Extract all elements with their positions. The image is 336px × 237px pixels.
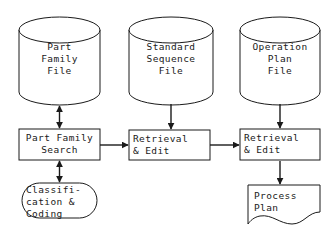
box-retrieval-edit-sequence [129,130,210,160]
diagram-canvas [0,0,336,237]
cylinder-operation-plan-file [240,17,320,105]
cylinder-standard-sequence-file [129,17,213,105]
document-process-plan [248,185,320,224]
process-planning-diagram: Part Family File Standard Sequence File … [0,0,336,237]
box-retrieval-edit-operation [240,129,320,160]
cylinder-part-family-file [19,17,100,105]
box-part-family-search [19,129,100,160]
stadium-classification-coding [22,183,97,218]
